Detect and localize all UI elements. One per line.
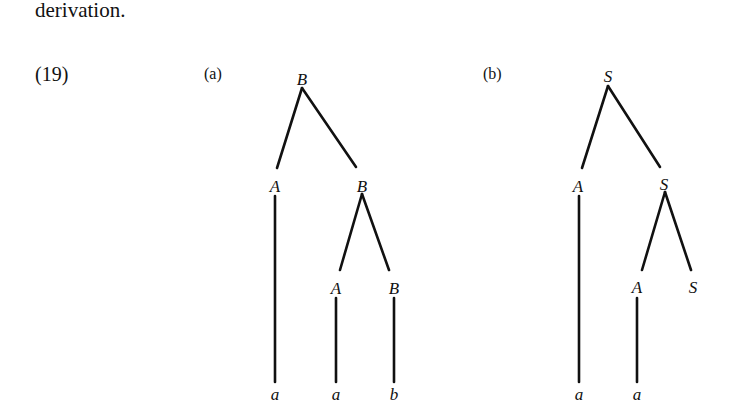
edge xyxy=(642,192,665,270)
derivation-trees: B A B A B a a b S A S A S a a xyxy=(0,0,730,404)
tree-node: A xyxy=(631,278,643,297)
edge xyxy=(582,86,608,168)
tree-node: A xyxy=(572,177,584,196)
edge xyxy=(362,194,389,270)
tree-node: A xyxy=(269,177,281,196)
tree-node: B xyxy=(297,70,308,89)
tree-node: S xyxy=(689,278,698,297)
tree-node: A xyxy=(330,279,342,298)
tree-leaf: a xyxy=(633,385,642,404)
edge xyxy=(608,86,660,167)
tree-node: S xyxy=(604,67,613,86)
tree-a: B A B A B a a b xyxy=(269,70,400,404)
tree-leaf: a xyxy=(332,385,341,404)
tree-node: B xyxy=(389,279,400,298)
tree-node: S xyxy=(660,175,669,194)
edge xyxy=(277,88,302,168)
tree-leaf: a xyxy=(271,385,280,404)
edge xyxy=(665,192,691,270)
edge xyxy=(302,88,356,167)
edge xyxy=(340,194,362,270)
tree-leaf: b xyxy=(390,385,399,404)
tree-leaf: a xyxy=(575,385,584,404)
tree-node: B xyxy=(357,177,368,196)
tree-b: S A S A S a a xyxy=(572,67,698,404)
